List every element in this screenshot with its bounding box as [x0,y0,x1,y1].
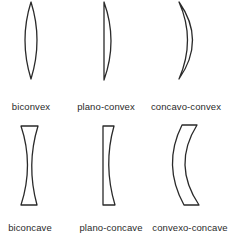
convexo-concave-lens-icon [172,125,199,205]
lens-types-diagram: biconvex plano-convex concavo-convex bic… [0,0,235,239]
label-concavo-convex: concavo-convex [151,102,221,112]
label-plano-concave: plano-concave [79,223,142,233]
lens-shapes [0,0,235,239]
plano-concave-lens-icon [103,126,115,205]
plano-convex-lens-icon [104,2,111,80]
biconvex-lens-icon [25,2,37,79]
concavo-convex-lens-icon [179,2,193,79]
label-biconcave: biconcave [8,223,52,233]
label-biconvex: biconvex [12,102,50,112]
biconcave-lens-icon [21,126,38,205]
label-plano-convex: plano-convex [77,102,135,112]
label-convexo-concave: convexo-concave [152,223,227,233]
